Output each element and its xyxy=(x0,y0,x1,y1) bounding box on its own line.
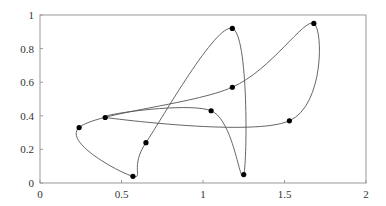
axis-ticks xyxy=(40,15,366,183)
data-point xyxy=(103,115,108,120)
y-tick-label: 0 xyxy=(29,177,35,189)
chart: 00.511.52 00.20.40.60.81 xyxy=(0,0,386,206)
y-tick-label: 0.6 xyxy=(20,76,34,88)
y-axis-tick-labels: 00.20.40.60.81 xyxy=(20,9,34,189)
x-tick-label: 0.5 xyxy=(115,188,129,200)
x-axis-tick-labels: 00.511.52 xyxy=(37,188,369,200)
y-tick-label: 0.8 xyxy=(20,43,34,55)
y-tick-label: 1 xyxy=(29,9,35,21)
data-point xyxy=(209,108,214,113)
x-tick-label: 1.5 xyxy=(278,188,292,200)
spline-curve xyxy=(76,23,319,177)
data-points xyxy=(77,21,317,179)
data-point xyxy=(77,125,82,130)
plot-frame xyxy=(40,15,366,183)
data-point xyxy=(130,174,135,179)
x-tick-label: 0 xyxy=(37,188,43,200)
data-point xyxy=(241,172,246,177)
data-point xyxy=(311,21,316,26)
x-tick-label: 1 xyxy=(200,188,206,200)
y-tick-label: 0.2 xyxy=(20,143,34,155)
data-point xyxy=(143,140,148,145)
x-tick-label: 2 xyxy=(363,188,369,200)
data-point xyxy=(287,118,292,123)
data-point xyxy=(230,26,235,31)
y-tick-label: 0.4 xyxy=(20,110,34,122)
data-point xyxy=(230,85,235,90)
